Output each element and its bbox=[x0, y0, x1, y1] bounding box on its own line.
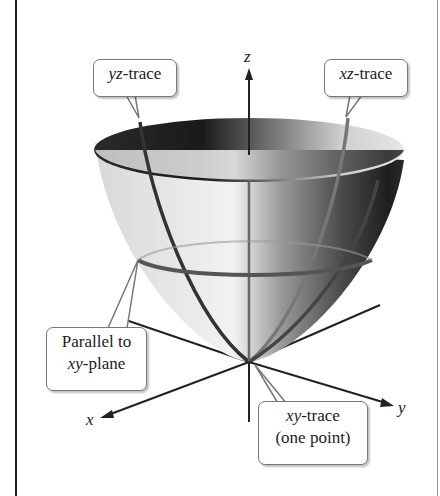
callout-line2: (one point) bbox=[267, 427, 359, 449]
callout-text: -plane bbox=[83, 354, 125, 373]
callout-xz-trace: xz-trace bbox=[324, 59, 408, 97]
callout-var: xy bbox=[68, 354, 83, 373]
z-axis-label: z bbox=[244, 47, 251, 67]
callout-parallel-plane: Parallel to xy-plane bbox=[46, 327, 147, 391]
callout-yz-trace: yz-trace bbox=[93, 59, 177, 97]
callout-line1: Parallel to bbox=[55, 331, 138, 353]
callout-text: -trace bbox=[301, 406, 340, 425]
callout-var: yz bbox=[109, 64, 123, 83]
callout-text: -trace bbox=[354, 64, 393, 83]
callout-xy-trace: xy-trace (one point) bbox=[258, 401, 368, 465]
callout-text: -trace bbox=[123, 64, 162, 83]
figure: z x y yz-trace xz-trace Parallel to xy-p… bbox=[0, 0, 440, 496]
x-axis-label: x bbox=[86, 410, 94, 430]
callout-var: xy bbox=[286, 406, 301, 425]
y-axis-label: y bbox=[398, 398, 406, 418]
callout-var: xz bbox=[340, 64, 354, 83]
